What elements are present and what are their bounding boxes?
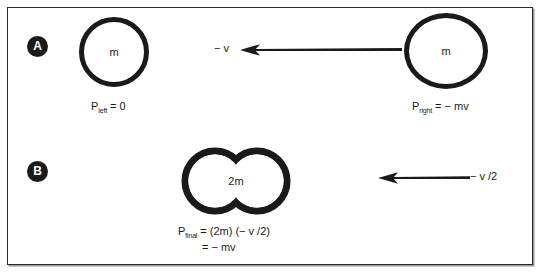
momentum-diagram: A m m − v Pleft = 0 Pright = − mv B: [0, 0, 540, 276]
final-momentum-formula: Pfinal = (2m) (− v /2) = − mv: [178, 224, 270, 254]
formula-line-2: = − mv: [178, 240, 270, 254]
velocity-label-b: − v /2: [470, 170, 497, 182]
velocity-arrow-b: [378, 170, 470, 186]
merged-mass-label: 2m: [180, 175, 292, 187]
formula-line-1: = (2m) (− v /2): [200, 225, 270, 237]
panel-badge-b: B: [27, 161, 48, 182]
formula-subscript: final: [185, 232, 197, 239]
merged-object-mass-2m: 2m: [180, 146, 292, 216]
panel-b: B 2m − v /2 Pfinal = (2: [0, 0, 540, 276]
